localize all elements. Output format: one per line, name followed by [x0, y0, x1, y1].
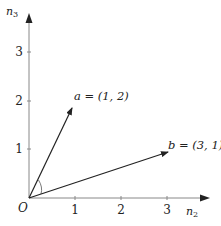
y-axis	[26, 13, 33, 198]
vector-b	[29, 152, 168, 198]
vector-b-label: b = (3, 1)	[168, 138, 221, 152]
x-tick-2: 2	[117, 203, 125, 217]
y-tick-3: 3	[15, 45, 23, 59]
y-tick-1: 1	[15, 142, 23, 156]
vector-a	[29, 108, 72, 198]
x-axis	[29, 195, 210, 202]
y-tick-2: 2	[15, 94, 23, 108]
x-axis-label: n2	[186, 205, 198, 219]
origin-label: O	[18, 201, 28, 215]
vector-diagram: 1 2 3 1 2 3 n2 n3 O a = (1, 2) b = (3, 1…	[0, 0, 221, 226]
x-tick-1: 1	[71, 203, 79, 217]
angle-arc-icon	[39, 180, 42, 194]
vector-a-label: a = (1, 2)	[74, 89, 129, 103]
y-axis-arrow-icon	[26, 13, 33, 23]
x-axis-arrow-icon	[200, 195, 210, 202]
x-tick-3: 3	[163, 203, 171, 217]
y-axis-label: n3	[6, 5, 18, 19]
